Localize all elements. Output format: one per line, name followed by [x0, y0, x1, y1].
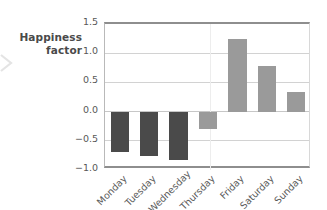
- plot-area: [104, 22, 310, 168]
- y-axis-tick-label: 0.0: [68, 105, 98, 115]
- bar: [111, 112, 129, 152]
- bar: [258, 66, 276, 112]
- chart-figure: Happiness factor 1.51.00.50.0−0.5−1.0 Mo…: [0, 0, 327, 210]
- bar: [287, 92, 305, 111]
- bar: [228, 39, 246, 111]
- bar: [199, 112, 217, 129]
- y-axis-title-line1: Happiness: [8, 31, 82, 44]
- y-axis-tick-label: −1.0: [68, 163, 98, 173]
- bar: [140, 112, 158, 156]
- bar: [169, 112, 187, 160]
- y-axis-tick-label: −0.5: [68, 134, 98, 144]
- bar-series: [105, 24, 309, 166]
- y-axis-tick-label: 1.5: [68, 17, 98, 27]
- y-axis-tick-label: 0.5: [68, 75, 98, 85]
- y-axis-tick-label: 1.0: [68, 46, 98, 56]
